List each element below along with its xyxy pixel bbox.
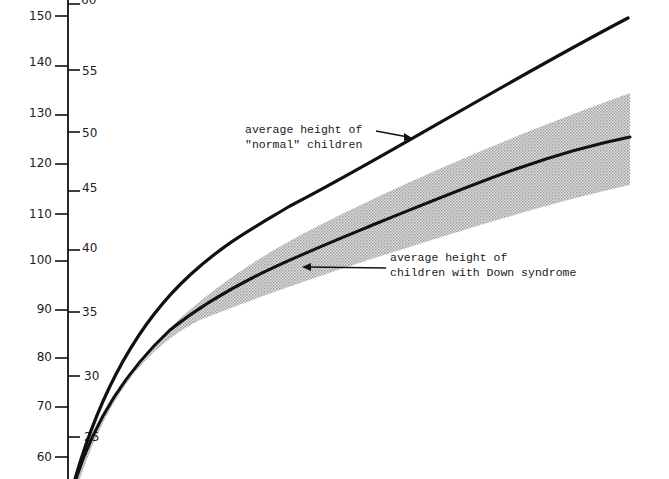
svg-text:"normal" children: "normal" children (245, 138, 362, 151)
tick-label-130: 130 (29, 106, 52, 120)
annotation-arrow-normal (376, 131, 408, 137)
tick-label-150: 150 (29, 9, 52, 23)
height-growth-chart: 150 140 130 120 110 100 90 80 70 60 60 5… (0, 0, 669, 479)
tick-label-55in: 55 (82, 64, 97, 78)
tick-label-45in: 45 (82, 181, 97, 195)
tick-label-50in: 50 (82, 126, 97, 140)
tick-label-35in: 35 (82, 305, 97, 319)
annotation-arrow-down (308, 267, 386, 268)
tick-label-70: 70 (37, 399, 52, 413)
tick-label-60in: 60 (81, 0, 96, 7)
tick-label-110: 110 (29, 207, 52, 221)
tick-label-30in: 30 (84, 369, 99, 383)
svg-text:average height of: average height of (245, 123, 362, 136)
tick-label-120: 120 (29, 156, 52, 170)
tick-label-80: 80 (37, 350, 52, 364)
annotation-normal-children: average height of "normal" children (245, 123, 412, 151)
left-axis-labels: 150 140 130 120 110 100 90 80 70 60 (29, 9, 52, 464)
tick-label-90: 90 (37, 302, 52, 316)
right-axis-ticks (68, 4, 80, 437)
svg-text:children with Down syndrome: children with Down syndrome (390, 266, 576, 279)
svg-text:average height of: average height of (390, 251, 507, 264)
tick-label-40in: 40 (82, 241, 97, 255)
tick-label-60: 60 (37, 450, 52, 464)
left-axis-ticks (55, 16, 68, 457)
tick-label-140: 140 (29, 55, 52, 69)
right-axis-labels: 60 55 50 45 40 35 30 25 (81, 0, 99, 444)
tick-label-100: 100 (29, 253, 52, 267)
